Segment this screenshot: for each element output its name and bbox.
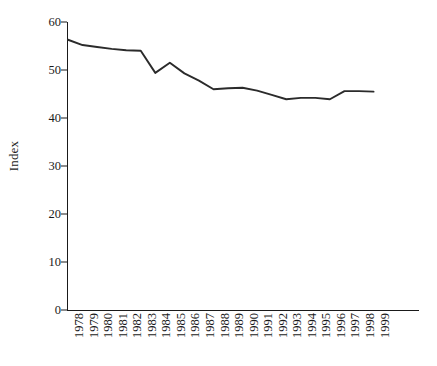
y-axis-tick-mark xyxy=(61,22,67,23)
y-axis-tick-mark xyxy=(61,310,67,311)
x-axis-tick-label: 1991 xyxy=(262,313,275,338)
x-axis-tick-label: 1983 xyxy=(146,313,159,338)
x-axis-tick-label: 1979 xyxy=(88,313,101,338)
plot-area xyxy=(0,0,437,366)
x-axis-tick-label: 1993 xyxy=(291,313,304,338)
y-axis-tick-mark xyxy=(61,70,67,71)
x-axis-tick-label: 1996 xyxy=(335,313,348,338)
x-axis-tick-label: 1997 xyxy=(349,313,362,338)
x-axis-tick-label: 1998 xyxy=(364,313,377,338)
y-axis-tick-mark xyxy=(61,262,67,263)
data-series-line xyxy=(68,40,374,100)
x-axis-tick-label: 1984 xyxy=(160,313,173,338)
x-axis-tick-label: 1989 xyxy=(233,313,246,338)
x-axis-tick-label: 1990 xyxy=(248,313,261,338)
x-axis-tick-label: 1982 xyxy=(131,313,144,338)
x-axis-tick-label: 1999 xyxy=(379,313,392,338)
x-axis-tick-label: 1988 xyxy=(219,313,232,338)
x-axis-tick-labels: 1978197919801981198219831984198519861987… xyxy=(0,313,437,366)
x-axis-tick-label: 1985 xyxy=(175,313,188,338)
x-axis-tick-label: 1981 xyxy=(117,313,130,338)
y-axis-tick-mark xyxy=(61,118,67,119)
x-axis-tick-label: 1992 xyxy=(277,313,290,338)
x-axis-tick-label: 1994 xyxy=(306,313,319,338)
x-axis-tick-label: 1995 xyxy=(320,313,333,338)
x-axis-tick-label: 1986 xyxy=(189,313,202,338)
x-axis-tick-label: 1987 xyxy=(204,313,217,338)
y-axis-tick-mark xyxy=(61,166,67,167)
x-axis-tick-label: 1980 xyxy=(102,313,115,338)
line-chart: Index 0102030405060 19781979198019811982… xyxy=(0,0,437,366)
y-axis-tick-mark xyxy=(61,214,67,215)
x-axis-tick-label: 1978 xyxy=(73,313,86,338)
